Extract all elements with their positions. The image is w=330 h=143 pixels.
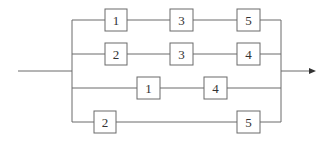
block-label: 3	[178, 47, 185, 62]
block-label: 4	[212, 81, 219, 96]
output-arrow-icon	[309, 68, 316, 74]
reliability-diagram: 1 3 5 2 3 4 1 4 2 5	[0, 0, 330, 143]
block-label: 5	[245, 115, 252, 130]
block-label: 4	[245, 47, 252, 62]
block-label: 2	[102, 115, 109, 130]
block-label: 5	[245, 13, 252, 28]
block-label: 3	[178, 13, 185, 28]
block-label: 2	[113, 47, 120, 62]
block-label: 1	[113, 13, 120, 28]
block-label: 1	[145, 81, 152, 96]
